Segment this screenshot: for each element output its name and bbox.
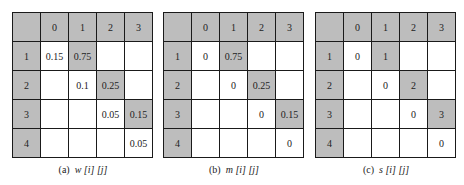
column-header: 1 [69, 13, 97, 42]
cell: 2 [400, 71, 428, 100]
cell [344, 129, 372, 158]
table-row: 10.150.75 [13, 42, 153, 71]
cell [69, 100, 97, 129]
cell [344, 100, 372, 129]
cell: 0 [372, 71, 400, 100]
cell [372, 100, 400, 129]
header-row: 0123 [13, 13, 153, 42]
caption-variable: s [i] [j] [379, 164, 409, 175]
row-header: 2 [164, 71, 192, 100]
column-header: 1 [220, 13, 248, 42]
cell [192, 100, 220, 129]
column-header: 1 [372, 13, 400, 42]
cell [400, 42, 428, 71]
table-row: 40 [316, 129, 456, 158]
cell: 0.75 [220, 42, 248, 71]
row-header: 1 [13, 42, 41, 71]
column-header: 3 [276, 13, 304, 42]
column-header: 0 [344, 13, 372, 42]
cell [125, 71, 153, 100]
row-header: 3 [316, 100, 344, 129]
column-header [13, 13, 41, 42]
matrix-table: 012310.150.7520.10.2530.050.1540.05 [12, 12, 153, 158]
cell: 3 [428, 100, 456, 129]
cell [220, 129, 248, 158]
table-row: 30.050.15 [13, 100, 153, 129]
cell [69, 129, 97, 158]
table-row: 100.75 [164, 42, 304, 71]
cell: 0 [400, 100, 428, 129]
cell [428, 42, 456, 71]
table-row: 40 [164, 129, 304, 158]
cell: 0 [192, 42, 220, 71]
cell [276, 42, 304, 71]
row-header: 4 [13, 129, 41, 158]
table-row: 40.05 [13, 129, 153, 158]
table-row: 101 [316, 42, 456, 71]
table-row: 20.10.25 [13, 71, 153, 100]
cell [344, 71, 372, 100]
cell: 0 [248, 100, 276, 129]
cell: 0.05 [125, 129, 153, 158]
caption-variable: m [i] [j] [226, 164, 259, 175]
column-header [164, 13, 192, 42]
caption-label: (b) [209, 164, 221, 175]
table-panel-s: 012310120230340(c) s [i] [j] [315, 12, 456, 158]
header-row: 0123 [164, 13, 304, 42]
row-header: 2 [316, 71, 344, 100]
cell: 0.15 [41, 42, 69, 71]
table-panel-w: 012310.150.7520.10.2530.050.1540.05(a) w… [12, 12, 153, 158]
column-header: 2 [400, 13, 428, 42]
table-caption: (a) w [i] [j] [12, 164, 154, 175]
cell [372, 129, 400, 158]
cell: 0.25 [248, 71, 276, 100]
cell [97, 42, 125, 71]
cell [41, 71, 69, 100]
cell [428, 71, 456, 100]
cell [276, 71, 304, 100]
cell [192, 71, 220, 100]
cell: 0 [428, 129, 456, 158]
table-panel-m: 0123100.75200.25300.1540(b) m [i] [j] [163, 12, 304, 158]
column-header: 0 [41, 13, 69, 42]
header-row: 0123 [316, 13, 456, 42]
cell: 0.15 [125, 100, 153, 129]
matrix-table: 0123100.75200.25300.1540 [163, 12, 304, 158]
table-row: 300.15 [164, 100, 304, 129]
caption-label: (a) [59, 164, 70, 175]
cell: 0 [220, 71, 248, 100]
row-header: 1 [164, 42, 192, 71]
column-header [316, 13, 344, 42]
table-row: 303 [316, 100, 456, 129]
cell [248, 42, 276, 71]
cell [192, 129, 220, 158]
table-caption: (c) s [i] [j] [315, 164, 457, 175]
cell [41, 100, 69, 129]
column-header: 2 [248, 13, 276, 42]
column-header: 0 [192, 13, 220, 42]
row-header: 1 [316, 42, 344, 71]
cell [220, 100, 248, 129]
cell: 0.75 [69, 42, 97, 71]
table-caption: (b) m [i] [j] [163, 164, 305, 175]
cell: 0 [344, 42, 372, 71]
row-header: 3 [13, 100, 41, 129]
column-header: 3 [428, 13, 456, 42]
row-header: 4 [164, 129, 192, 158]
cell [97, 129, 125, 158]
cell: 0.25 [97, 71, 125, 100]
column-header: 2 [97, 13, 125, 42]
caption-variable: w [i] [j] [75, 164, 108, 175]
row-header: 2 [13, 71, 41, 100]
cell: 0.15 [276, 100, 304, 129]
column-header: 3 [125, 13, 153, 42]
caption-label: (c) [363, 164, 374, 175]
cell [248, 129, 276, 158]
cell: 0 [276, 129, 304, 158]
cell [400, 129, 428, 158]
row-header: 4 [316, 129, 344, 158]
cell: 0.05 [97, 100, 125, 129]
matrix-table: 012310120230340 [315, 12, 456, 158]
cell [41, 129, 69, 158]
cell: 1 [372, 42, 400, 71]
